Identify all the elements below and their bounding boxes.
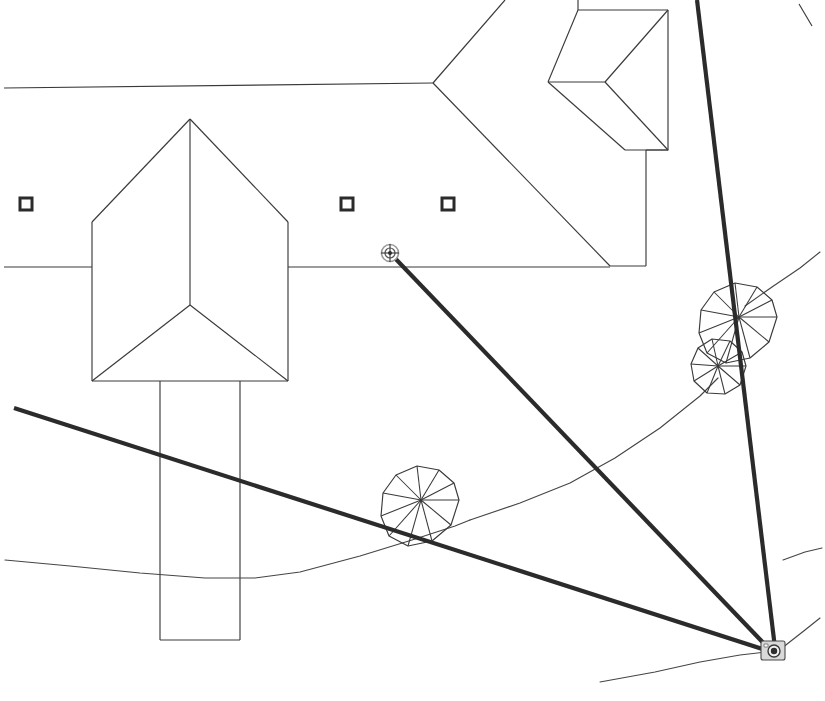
roof-ridge-main-diagonal: [433, 83, 610, 266]
contour-line-bottom-right: [600, 652, 766, 682]
dormer-hip-upper: [548, 10, 578, 82]
roof-upper-top-edge: [578, 0, 668, 10]
survey-points-group[interactable]: [20, 198, 454, 210]
contour-line-lower: [5, 520, 470, 578]
house-wing-rectangle-group: [160, 381, 240, 640]
tree-spokes: [381, 466, 459, 546]
sight-line-target-node[interactable]: [381, 244, 399, 262]
sight-lines-group[interactable]: [14, 0, 775, 652]
property-line-corner-tick: [799, 4, 812, 26]
node-center-dot: [388, 251, 392, 255]
dormer-valley-lower: [605, 82, 668, 150]
dormer-valley-upper: [605, 10, 668, 82]
dormer-roof-group: [548, 10, 668, 150]
main-house-group: [92, 119, 288, 381]
boundary-lines-group: [4, 4, 812, 267]
property-line-top: [4, 83, 433, 88]
house-hip-lower-left: [92, 305, 190, 381]
sight-line-to-left-edge[interactable]: [14, 408, 772, 652]
house-hip-lower-right: [190, 305, 288, 381]
sight-line-vertical[interactable]: [697, 0, 775, 648]
camera-flash-icon: [764, 644, 768, 647]
survey-point-2[interactable]: [341, 198, 353, 210]
roof-hip-upper-left: [433, 0, 505, 83]
cad-drawing-canvas[interactable]: [0, 0, 825, 701]
site-plan-svg[interactable]: [0, 0, 825, 701]
tree-canopy-outline: [381, 466, 459, 546]
contour-line-bottom-far-right: [782, 618, 820, 648]
camera-lens-center: [771, 648, 777, 654]
house-hip-left: [92, 119, 190, 222]
tree-symbols-group: [381, 283, 777, 546]
contour-line-diagonal-right: [470, 378, 718, 520]
contour-line-upper-right: [745, 252, 820, 306]
house-hip-right: [190, 119, 288, 222]
camera-viewpoint-marker[interactable]: [761, 641, 785, 660]
dormer-hip-lower: [548, 82, 625, 150]
upper-right-roof-group: [433, 0, 668, 266]
tree-symbol-center: [381, 466, 459, 546]
survey-point-1[interactable]: [20, 198, 32, 210]
contour-line-right-edge: [783, 548, 822, 560]
survey-point-3[interactable]: [442, 198, 454, 210]
